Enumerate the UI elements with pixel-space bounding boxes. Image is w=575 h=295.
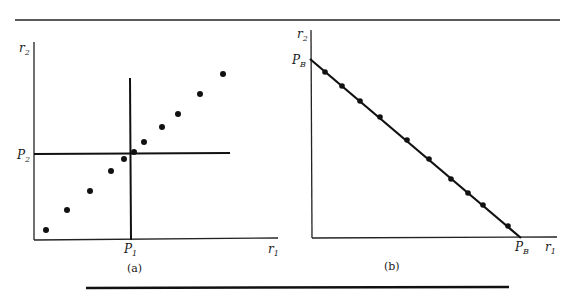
panel-a-y-label: r2 [19,41,30,57]
panel-a-x-axis [34,238,278,240]
panel-a: r2 P2 P1 r1 (a) [16,41,279,275]
panel-b: r2 PB PB r1 (b) [291,27,557,273]
panel-b-x-label: r1 [545,240,556,256]
panel-a-caption: (a) [127,262,142,275]
panel-b-caption: (b) [384,260,400,273]
panel-a-p2-label: P2 [16,148,30,164]
bottom-rule [86,287,509,288]
panel-a-p1-label: P1 [123,242,137,258]
panel-a-x-label: r1 [268,242,279,258]
figure-canvas: r2 P2 P1 r1 (a) r2 PB PB r1 (b) [0,0,575,295]
panel-b-pb-y-label: PB [291,53,306,69]
panel-b-y-label: r2 [297,27,308,43]
panel-a-points [43,71,226,233]
panel-a-p1-line [130,78,131,240]
panel-b-pb-x-label: PB [514,240,529,256]
